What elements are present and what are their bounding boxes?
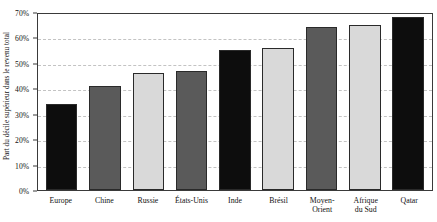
- x-axis-tick-label-line: Chine: [95, 196, 114, 205]
- y-axis-tick-label: 30%: [8, 110, 32, 119]
- bar-slot: [257, 14, 300, 190]
- y-axis-tick-label: 0%: [8, 187, 32, 196]
- bar[interactable]: [392, 17, 424, 190]
- y-axis-tick-labels: 0%10%20%30%40%50%60%70%: [8, 0, 32, 222]
- bar[interactable]: [46, 104, 78, 190]
- x-axis-tick-label-line: Moyen-Orient: [310, 196, 335, 214]
- bar[interactable]: [176, 71, 208, 191]
- bar-chart: Part du décile supérieur dans le revenu …: [0, 0, 437, 222]
- bar-slot: [40, 14, 83, 190]
- x-axis-tick-label-line: Brésil: [269, 196, 288, 205]
- bar[interactable]: [219, 50, 251, 190]
- bar-slot: [127, 14, 170, 190]
- x-axis-tick-label: Russie: [126, 193, 170, 222]
- x-axis-tick-label: Brésil: [257, 193, 301, 222]
- y-axis-tick-label: 40%: [8, 85, 32, 94]
- bar[interactable]: [262, 48, 294, 190]
- bar-slot: [300, 14, 343, 190]
- y-axis-tick-label: 50%: [8, 59, 32, 68]
- x-axis-tick-label-line: Europe: [50, 196, 73, 205]
- bar[interactable]: [306, 27, 338, 190]
- bar-slot: [83, 14, 126, 190]
- bars-layer: [38, 14, 432, 190]
- x-axis-tick-label: Inde: [213, 193, 257, 222]
- x-axis-tick-label: États-Unis: [170, 193, 214, 222]
- y-axis-tick-label: 20%: [8, 136, 32, 145]
- x-axis-tick-label: Qatar: [388, 193, 432, 222]
- x-axis-tick-label-line: Russie: [138, 196, 159, 205]
- x-axis-tick-label: Europe: [39, 193, 83, 222]
- bar[interactable]: [133, 73, 165, 190]
- x-axis-tick-label: Moyen-Orient: [300, 193, 344, 222]
- bar-slot: [170, 14, 213, 190]
- bar-slot: [343, 14, 386, 190]
- y-axis-tick-label: 10%: [8, 161, 32, 170]
- bar-slot: [387, 14, 430, 190]
- x-axis-tick-label: Afriquedu Sud: [344, 193, 388, 222]
- bar[interactable]: [89, 86, 121, 190]
- x-axis-tick-label: Chine: [83, 193, 127, 222]
- y-axis-tick-label: 60%: [8, 34, 32, 43]
- x-axis-tick-labels: EuropeChineRussieÉtats-UnisIndeBrésilMoy…: [37, 193, 433, 222]
- plot-area: [37, 13, 433, 191]
- x-axis-tick-label-line: Qatar: [401, 196, 418, 205]
- x-axis-tick-label-line: du Sud: [344, 206, 388, 215]
- x-axis-tick-label-line: États-Unis: [175, 196, 208, 205]
- x-axis-tick-label-line: Inde: [228, 196, 242, 205]
- bar-slot: [213, 14, 256, 190]
- x-axis-tick-label-line: Afrique: [354, 196, 378, 205]
- y-axis-tick-label: 70%: [8, 9, 32, 18]
- bar[interactable]: [349, 25, 381, 190]
